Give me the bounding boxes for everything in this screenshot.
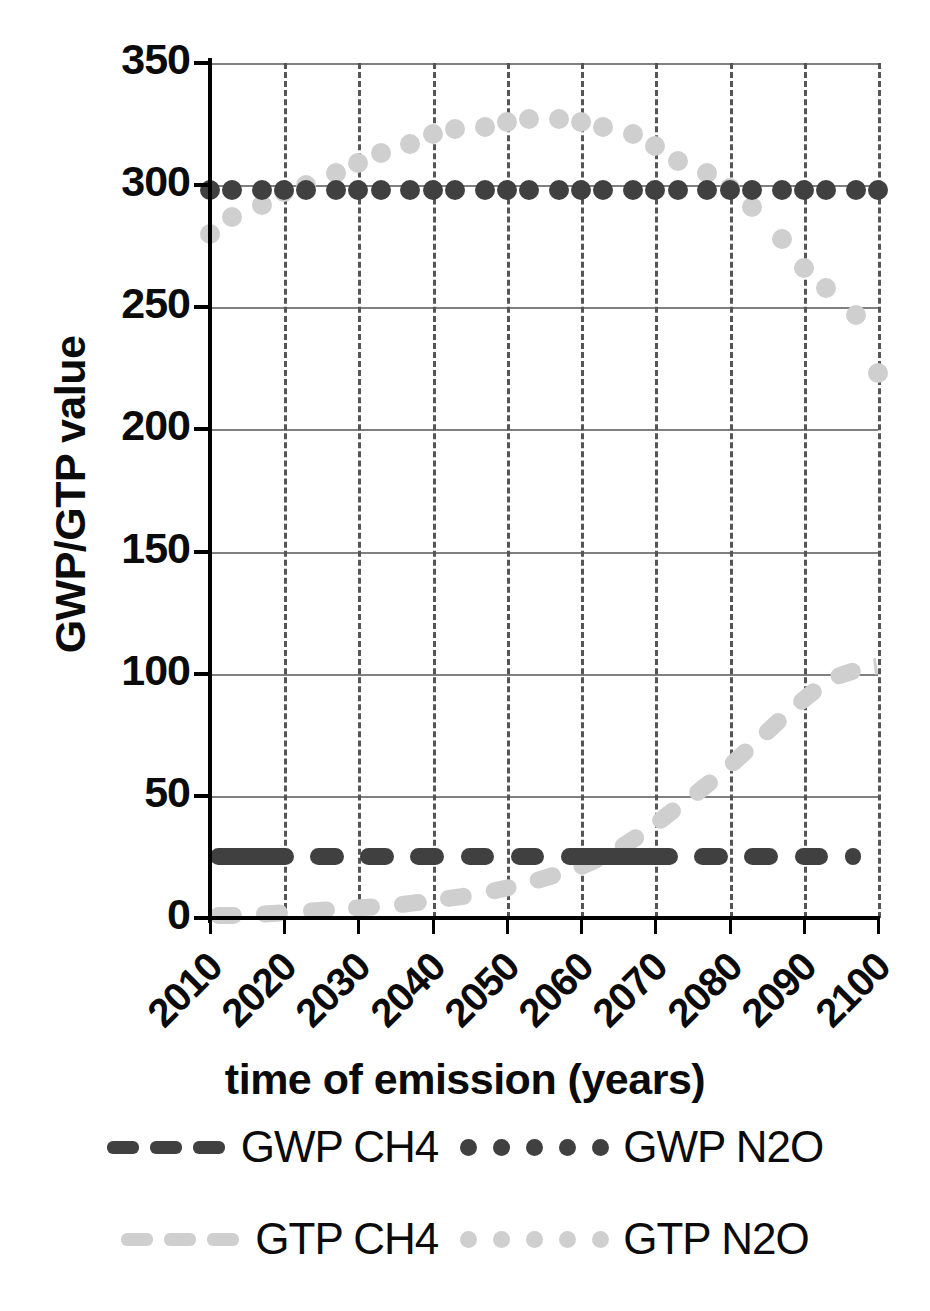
data-point-marker bbox=[445, 180, 465, 200]
legend-row-1: GWP CH4 GWP N2O bbox=[0, 1112, 930, 1182]
data-point-marker bbox=[497, 112, 517, 132]
data-point-marker bbox=[371, 143, 391, 163]
data-point-marker bbox=[549, 109, 569, 129]
y-tick-mark bbox=[194, 916, 208, 920]
legend-label-gtp-ch4: GTP CH4 bbox=[255, 1214, 438, 1264]
data-point-marker bbox=[348, 153, 368, 173]
data-point-marker bbox=[623, 180, 643, 200]
dashed-line-segment bbox=[795, 848, 828, 865]
data-point-marker bbox=[519, 180, 539, 200]
y-tick-mark bbox=[194, 61, 208, 65]
data-point-marker bbox=[400, 134, 420, 154]
data-point-marker bbox=[772, 229, 792, 249]
dotted-marker-key-icon bbox=[460, 1139, 609, 1156]
data-point-marker bbox=[326, 180, 346, 200]
legend-row-2: GTP CH4 GTP N2O bbox=[0, 1204, 930, 1274]
dashed-line-segment bbox=[439, 887, 473, 908]
data-point-marker bbox=[400, 180, 420, 200]
data-point-marker bbox=[475, 180, 495, 200]
y-tick-mark bbox=[194, 672, 208, 676]
data-point-marker bbox=[348, 180, 368, 200]
x-tick-mark bbox=[283, 918, 286, 934]
horizontal-gridline bbox=[210, 429, 878, 431]
x-tick-mark bbox=[654, 918, 657, 934]
data-point-marker bbox=[222, 207, 242, 227]
dashed-line-segment bbox=[511, 848, 544, 865]
data-point-marker bbox=[816, 278, 836, 298]
dashed-line-segment bbox=[410, 848, 443, 865]
x-tick-label: 2030 bbox=[287, 944, 379, 1036]
data-point-marker bbox=[772, 180, 792, 200]
dashed-line-segment bbox=[310, 848, 343, 865]
horizontal-gridline bbox=[210, 674, 878, 676]
dashed-line-segment bbox=[528, 865, 563, 890]
legend-label-gwp-ch4: GWP CH4 bbox=[241, 1122, 439, 1172]
dashed-line-segment bbox=[744, 848, 777, 865]
data-point-marker bbox=[593, 117, 613, 137]
data-point-marker bbox=[371, 180, 391, 200]
data-point-marker bbox=[868, 363, 888, 383]
dashed-line-segment bbox=[845, 848, 862, 865]
legend-label-gtp-n2o: GTP N2O bbox=[623, 1214, 808, 1264]
x-axis-title: time of emission (years) bbox=[0, 1055, 930, 1104]
dashed-line-segment bbox=[694, 848, 727, 865]
horizontal-gridline bbox=[210, 552, 878, 554]
x-tick-label: 2020 bbox=[213, 944, 305, 1036]
dashed-line-segment bbox=[484, 878, 518, 901]
x-tick-mark bbox=[580, 918, 583, 934]
data-point-marker bbox=[742, 180, 762, 200]
data-point-marker bbox=[720, 180, 740, 200]
data-point-marker bbox=[519, 109, 539, 129]
legend-entry-gwp-n2o: GWP N2O bbox=[438, 1122, 823, 1172]
y-tick-mark bbox=[194, 427, 208, 431]
x-tick-label: 2090 bbox=[733, 944, 825, 1036]
data-point-marker bbox=[645, 136, 665, 156]
x-tick-label: 2100 bbox=[807, 944, 899, 1036]
data-point-marker bbox=[816, 180, 836, 200]
data-point-marker bbox=[623, 124, 643, 144]
data-point-marker bbox=[252, 180, 272, 200]
y-tick-label: 0 bbox=[40, 890, 190, 939]
data-point-marker bbox=[296, 180, 316, 200]
data-point-marker bbox=[868, 180, 888, 200]
horizontal-gridline bbox=[210, 796, 878, 798]
data-point-marker bbox=[668, 180, 688, 200]
y-axis-title: GWP/GTP value bbox=[46, 195, 95, 795]
x-tick-mark bbox=[357, 918, 360, 934]
x-tick-label: 2060 bbox=[510, 944, 602, 1036]
x-tick-mark bbox=[209, 918, 212, 934]
x-tick-label: 2040 bbox=[362, 944, 454, 1036]
x-tick-mark bbox=[803, 918, 806, 934]
x-axis-line bbox=[208, 916, 880, 920]
x-tick-label: 2080 bbox=[658, 944, 750, 1036]
data-point-marker bbox=[593, 180, 613, 200]
data-point-marker bbox=[445, 119, 465, 139]
x-tick-mark bbox=[432, 918, 435, 934]
legend-entry-gtp-n2o: GTP N2O bbox=[438, 1214, 808, 1264]
horizontal-gridline bbox=[210, 307, 878, 309]
data-point-marker bbox=[697, 180, 717, 200]
dotted-marker-key-light-icon bbox=[460, 1231, 609, 1248]
dashed-line-segment bbox=[561, 848, 678, 865]
legend-label-gwp-n2o: GWP N2O bbox=[623, 1122, 823, 1172]
data-point-marker bbox=[645, 180, 665, 200]
x-tick-label: 2070 bbox=[584, 944, 676, 1036]
chart-legend: GWP CH4 GWP N2O GTP CH4 GTP N2O bbox=[0, 1112, 930, 1302]
y-tick-label: 350 bbox=[40, 35, 190, 84]
dashed-line-segment bbox=[360, 848, 393, 865]
y-tick-mark bbox=[194, 183, 208, 187]
data-point-marker bbox=[742, 197, 762, 217]
data-point-marker bbox=[423, 124, 443, 144]
data-point-marker bbox=[668, 151, 688, 171]
y-tick-mark bbox=[194, 305, 208, 309]
dashed-line-segment bbox=[828, 661, 863, 687]
dashed-line-segment bbox=[685, 771, 721, 804]
data-point-marker bbox=[423, 180, 443, 200]
legend-entry-gwp-ch4: GWP CH4 bbox=[107, 1122, 439, 1172]
legend-entry-gtp-ch4: GTP CH4 bbox=[121, 1214, 438, 1264]
dashed-line-key-icon bbox=[107, 1141, 225, 1154]
y-tick-mark bbox=[194, 550, 208, 554]
dashed-line-segment bbox=[789, 680, 825, 713]
x-tick-label: 2050 bbox=[436, 944, 528, 1036]
data-point-marker bbox=[846, 180, 866, 200]
